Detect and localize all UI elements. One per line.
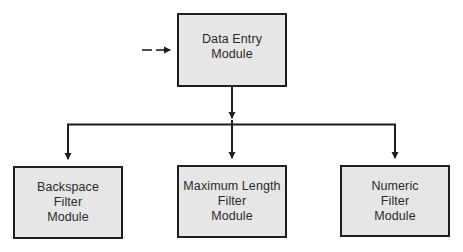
numeric-filter-module-box: Numeric Filter Module	[340, 165, 450, 237]
module-label-line: Backspace	[37, 180, 99, 195]
module-label-line: Module	[202, 47, 262, 62]
module-hierarchy-diagram: Data Entry Module Backspace Filter Modul…	[0, 0, 463, 252]
module-label-line: Module	[211, 209, 253, 224]
backspace-filter-module-box: Backspace Filter Module	[13, 166, 123, 239]
maximum-length-filter-module-box: Maximum Length Filter Module	[177, 165, 287, 238]
module-label-line: Data Entry	[202, 32, 262, 47]
data-entry-module-box: Data Entry Module	[177, 13, 287, 87]
module-label-line: Filter	[54, 195, 82, 210]
module-label-line: Module	[374, 209, 416, 224]
module-label-line: Module	[47, 210, 89, 225]
module-label-line: Numeric	[371, 179, 418, 194]
module-label-line: Maximum Length	[183, 179, 280, 194]
module-label-line: Filter	[218, 194, 246, 209]
module-label-line: Filter	[381, 194, 409, 209]
